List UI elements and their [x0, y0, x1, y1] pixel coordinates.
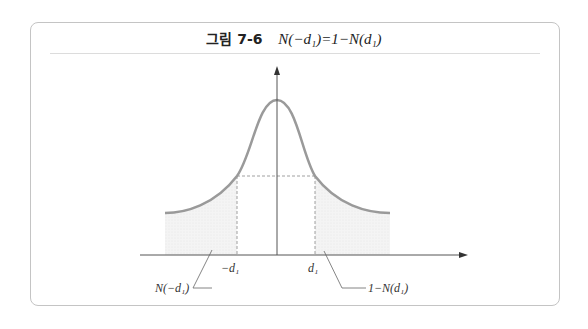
x-axis-arrow-icon	[459, 252, 468, 258]
normal-distribution-diagram: −d₁ d₁ N(−d₁) 1−N(d₁)	[0, 0, 588, 329]
left-area-label: N(−d₁)	[154, 281, 189, 295]
left-tick-label: −d₁	[221, 261, 239, 275]
right-leader-line	[324, 251, 366, 288]
right-tick-label: d₁	[308, 261, 318, 275]
left-leader-line	[193, 250, 212, 288]
y-axis-arrow-icon	[274, 66, 280, 75]
right-area-label: 1−N(d₁)	[368, 281, 408, 295]
